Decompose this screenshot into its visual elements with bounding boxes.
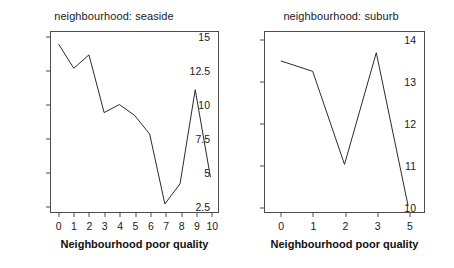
panel-title-seaside: neighbourhood: seaside bbox=[0, 10, 228, 22]
ytick-suburb bbox=[260, 124, 265, 125]
xtick-seaside bbox=[150, 212, 151, 217]
xtick-label-seaside: 2 bbox=[86, 220, 92, 232]
xtick-suburb bbox=[409, 212, 410, 217]
xtick-seaside bbox=[212, 212, 213, 217]
xtick-seaside bbox=[196, 212, 197, 217]
plot-area-suburb: Neighbourhood poor quality 1011121314012… bbox=[264, 31, 425, 213]
ytick-seaside bbox=[46, 71, 51, 72]
figure-canvas: neighbourhood: seaside Neighbourhood poo… bbox=[0, 0, 454, 268]
ytick-seaside bbox=[46, 105, 51, 106]
xaxis-title-seaside: Neighbourhood poor quality bbox=[51, 238, 218, 250]
xtick-seaside bbox=[181, 212, 182, 217]
xtick-suburb bbox=[345, 212, 346, 217]
series-line-suburb bbox=[265, 32, 424, 212]
xtick-label-suburb: 1 bbox=[310, 220, 316, 232]
panel-title-suburb: neighbourhood: suburb bbox=[228, 10, 454, 22]
ytick-suburb bbox=[260, 40, 265, 41]
ytick-label-seaside: 5 bbox=[204, 167, 210, 179]
ytick-label-suburb: 14 bbox=[404, 34, 416, 46]
ytick-suburb bbox=[260, 165, 265, 166]
ytick-seaside bbox=[46, 139, 51, 140]
xtick-label-seaside: 3 bbox=[102, 220, 108, 232]
xtick-label-suburb: 0 bbox=[278, 220, 284, 232]
ytick-label-suburb: 11 bbox=[405, 160, 416, 172]
ytick-label-seaside: 12.5 bbox=[190, 65, 210, 77]
xtick-suburb bbox=[313, 212, 314, 217]
xaxis-title-suburb: Neighbourhood poor quality bbox=[265, 238, 424, 250]
ytick-label-seaside: 7.5 bbox=[195, 133, 210, 145]
xtick-seaside bbox=[74, 212, 75, 217]
ytick-label-seaside: 10 bbox=[198, 99, 210, 111]
panel-suburb: neighbourhood: suburb Neighbourhood poor… bbox=[228, 0, 454, 268]
ytick-label-suburb: 13 bbox=[404, 76, 416, 88]
panel-seaside: neighbourhood: seaside Neighbourhood poo… bbox=[0, 0, 228, 268]
xtick-label-seaside: 5 bbox=[133, 220, 139, 232]
ytick-seaside bbox=[46, 173, 51, 174]
xtick-label-seaside: 1 bbox=[71, 220, 77, 232]
xtick-label-seaside: 0 bbox=[56, 220, 62, 232]
xtick-suburb bbox=[281, 212, 282, 217]
plot-area-seaside: Neighbourhood poor quality 2.557.51012.5… bbox=[50, 31, 219, 213]
xtick-label-seaside: 9 bbox=[194, 220, 200, 232]
xtick-suburb bbox=[377, 212, 378, 217]
xtick-seaside bbox=[89, 212, 90, 217]
xtick-seaside bbox=[120, 212, 121, 217]
xtick-label-seaside: 4 bbox=[117, 220, 123, 232]
xtick-label-seaside: 7 bbox=[163, 220, 169, 232]
series-line-seaside bbox=[51, 32, 218, 212]
ytick-suburb bbox=[260, 207, 265, 208]
xtick-seaside bbox=[135, 212, 136, 217]
xtick-label-seaside: 6 bbox=[148, 220, 154, 232]
xtick-label-seaside: 10 bbox=[206, 220, 218, 232]
ytick-seaside bbox=[46, 37, 51, 38]
xtick-seaside bbox=[104, 212, 105, 217]
xtick-seaside bbox=[166, 212, 167, 217]
xtick-label-seaside: 8 bbox=[179, 220, 185, 232]
xtick-label-suburb: 2 bbox=[343, 220, 349, 232]
ytick-label-suburb: 12 bbox=[404, 118, 416, 130]
ytick-suburb bbox=[260, 82, 265, 83]
xtick-label-suburb: 3 bbox=[375, 220, 381, 232]
ytick-label-seaside: 15 bbox=[198, 31, 210, 43]
ytick-seaside bbox=[46, 207, 51, 208]
xtick-seaside bbox=[58, 212, 59, 217]
ytick-label-seaside: 2.5 bbox=[195, 201, 210, 213]
xtick-label-suburb: 5 bbox=[407, 220, 413, 232]
